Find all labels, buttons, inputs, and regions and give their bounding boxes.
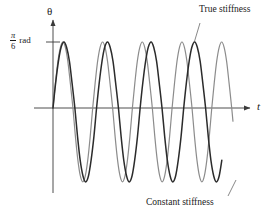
true-stiffness-annotation: True stiffness bbox=[199, 5, 250, 15]
y-axis-tick-label: π 6 rad bbox=[10, 31, 31, 50]
y-tick-denominator: 6 bbox=[10, 41, 16, 50]
plot-canvas bbox=[0, 0, 276, 218]
x-axis-label: t bbox=[257, 101, 260, 112]
y-tick-fraction: π 6 bbox=[10, 31, 16, 50]
y-axis-label: θ bbox=[47, 6, 52, 17]
oscillation-figure: θ t π 6 rad True stiffness Constant stif… bbox=[0, 0, 276, 218]
constant-stiffness-leader-line bbox=[228, 180, 236, 196]
y-tick-unit: rad bbox=[19, 36, 31, 45]
y-tick-numerator: π bbox=[10, 31, 16, 41]
constant-stiffness-annotation: Constant stiffness bbox=[146, 198, 214, 208]
true-stiffness-leader-line bbox=[194, 23, 200, 43]
